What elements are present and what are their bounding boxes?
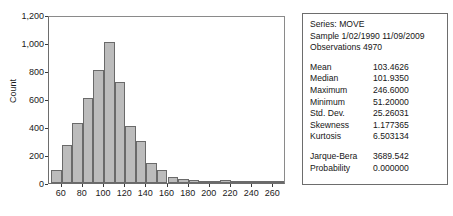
- stat-value: 1.177365: [373, 120, 441, 132]
- histogram-bar: [178, 179, 189, 183]
- statistics-panel: Series: MOVE Sample 1/02/1990 11/09/2009…: [302, 13, 448, 185]
- stats-spacer-2: [310, 143, 441, 151]
- stat-value: 103.4626: [373, 62, 441, 74]
- stat-value: 25.26031: [373, 108, 441, 120]
- stat-value: 101.9350: [373, 73, 441, 85]
- histogram-bar: [51, 170, 62, 183]
- stat-label: Mean: [310, 62, 373, 74]
- stat-label: Std. Dev.: [310, 108, 373, 120]
- histogram-bar: [146, 163, 157, 183]
- stat-value: 246.6000: [373, 85, 441, 97]
- x-axis-tick-mark: [272, 184, 273, 187]
- y-axis-tick-label: 1,000: [0, 39, 44, 49]
- stat-value: 6.503134: [373, 131, 441, 143]
- histogram-bar: [93, 70, 104, 183]
- x-axis-tick-mark: [230, 184, 231, 187]
- x-axis-tick-label: 120: [117, 188, 132, 198]
- histogram-bar: [252, 181, 263, 183]
- x-axis-tick-label: 240: [244, 188, 259, 198]
- sample-range-line: Sample 1/02/1990 11/09/2009: [310, 31, 441, 43]
- statistic-row: Kurtosis6.503134: [310, 131, 441, 143]
- x-axis-tick-labels: 6080100120140160180200220240260: [0, 188, 300, 202]
- stat-label: Skewness: [310, 120, 373, 132]
- x-axis-tick-label: 140: [138, 188, 153, 198]
- y-axis-tick-label: 200: [0, 151, 44, 161]
- histogram-bar: [210, 181, 221, 183]
- statistic-row: Std. Dev.25.26031: [310, 108, 441, 120]
- histogram-chart: Count 02004006008001,0001,200 6080100120…: [0, 0, 300, 216]
- histogram-bar: [83, 98, 94, 183]
- normality-test-rows: Jarque-Bera3689.542Probability0.000000: [310, 151, 441, 174]
- x-axis-tick-mark: [188, 184, 189, 187]
- stat-value: 3689.542: [373, 151, 441, 163]
- x-axis-tick-label: 200: [201, 188, 216, 198]
- y-axis-tick-label: 400: [0, 123, 44, 133]
- statistic-row: Minimum51.20000: [310, 97, 441, 109]
- x-axis-tick-label: 160: [159, 188, 174, 198]
- x-axis-tick-mark: [209, 184, 210, 187]
- stat-value: 0.000000: [373, 163, 441, 175]
- statistic-row: Skewness1.177365: [310, 120, 441, 132]
- histogram-bar: [136, 141, 147, 183]
- stats-spacer: [310, 54, 441, 62]
- x-axis-tick-label: 260: [265, 188, 280, 198]
- histogram-bar: [115, 82, 126, 183]
- x-axis-tick-label: 60: [56, 188, 66, 198]
- stat-label: Probability: [310, 163, 373, 175]
- x-axis-tick-mark: [103, 184, 104, 187]
- y-axis-tick-labels: 02004006008001,0001,200: [0, 0, 44, 216]
- y-axis-tick-label: 600: [0, 95, 44, 105]
- stat-value: 51.20000: [373, 97, 441, 109]
- statistic-row: Median101.9350: [310, 73, 441, 85]
- stat-label: Minimum: [310, 97, 373, 109]
- histogram-bar: [125, 126, 136, 183]
- histogram-bar: [168, 177, 179, 183]
- x-axis-tick-mark: [124, 184, 125, 187]
- histogram-bar: [199, 181, 210, 183]
- stat-label: Maximum: [310, 85, 373, 97]
- stat-label: Median: [310, 73, 373, 85]
- x-axis-tick-label: 220: [222, 188, 237, 198]
- x-axis-tick-mark: [61, 184, 62, 187]
- histogram-bar: [62, 145, 73, 184]
- x-axis-tick-mark: [251, 184, 252, 187]
- histogram-bar: [104, 42, 115, 183]
- histogram-bar: [263, 181, 274, 183]
- test-statistic-row: Probability0.000000: [310, 163, 441, 175]
- x-axis-tick-mark: [145, 184, 146, 187]
- histogram-bar: [242, 181, 253, 183]
- histogram-bar: [72, 123, 83, 183]
- observations-line: Observations 4970: [310, 42, 441, 54]
- stat-label: Jarque-Bera: [310, 151, 373, 163]
- statistic-row: Mean103.4626: [310, 62, 441, 74]
- histogram-statistics-view: Count 02004006008001,0001,200 6080100120…: [0, 0, 453, 216]
- statistic-row: Maximum246.6000: [310, 85, 441, 97]
- x-axis-tick-mark: [82, 184, 83, 187]
- stat-label: Kurtosis: [310, 131, 373, 143]
- y-axis-tick-label: 800: [0, 67, 44, 77]
- histogram-bar: [231, 181, 242, 183]
- x-axis-tick-label: 180: [180, 188, 195, 198]
- histogram-bar: [157, 170, 168, 183]
- x-axis-tick-label: 100: [96, 188, 111, 198]
- x-axis-tick-label: 80: [77, 188, 87, 198]
- series-name-line: Series: MOVE: [310, 19, 441, 31]
- histogram-bars: [49, 17, 284, 183]
- plot-area: [48, 16, 285, 184]
- histogram-bar: [273, 181, 284, 183]
- y-axis-tick-label: 1,200: [0, 11, 44, 21]
- x-axis-tick-mark: [167, 184, 168, 187]
- descriptive-statistics-rows: Mean103.4626Median101.9350Maximum246.600…: [310, 62, 441, 143]
- test-statistic-row: Jarque-Bera3689.542: [310, 151, 441, 163]
- histogram-bar: [189, 180, 200, 183]
- histogram-bar: [220, 180, 231, 183]
